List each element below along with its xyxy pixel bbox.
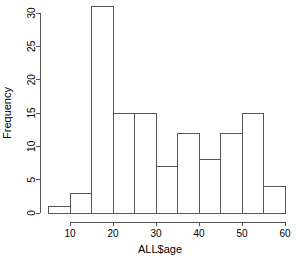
histogram-bar	[156, 166, 178, 213]
y-axis-tick-label: 30	[26, 7, 37, 19]
y-axis-tick-label: 0	[26, 210, 37, 216]
y-axis-tick-label: 5	[26, 176, 37, 182]
histogram-bar	[92, 6, 114, 213]
histogram-plot: 051015202530 102030405060 ALL$age Freque…	[0, 0, 298, 259]
histogram-bar	[264, 186, 286, 213]
bars-group	[49, 6, 286, 213]
histogram-bar	[49, 206, 71, 213]
y-axis-title: Frequency	[1, 87, 13, 139]
x-axis-tick-label: 40	[193, 228, 205, 239]
histogram-bar	[221, 133, 243, 213]
y-axis-tick-label: 25	[26, 40, 37, 52]
y-axis-tick-label: 10	[26, 140, 37, 152]
x-axis-tick-label: 50	[236, 228, 248, 239]
y-axis-tick-label: 20	[26, 74, 37, 86]
x-axis-tick-label: 20	[107, 228, 119, 239]
histogram-bar	[70, 193, 92, 213]
histogram-bar	[199, 160, 221, 213]
histogram-bar	[113, 113, 135, 213]
x-axis-title: ALL$age	[138, 243, 182, 255]
y-axis: 051015202530	[26, 7, 40, 216]
x-axis-tick-label: 30	[150, 228, 162, 239]
x-axis-tick-label: 60	[279, 228, 291, 239]
chart-canvas: 051015202530 102030405060 ALL$age Freque…	[0, 0, 298, 259]
histogram-bar	[135, 113, 157, 213]
x-axis-tick-label: 10	[64, 228, 76, 239]
x-axis: 102030405060	[64, 222, 291, 239]
y-axis-tick-label: 15	[26, 107, 37, 119]
histogram-bar	[242, 113, 264, 213]
histogram-bar	[178, 133, 200, 213]
